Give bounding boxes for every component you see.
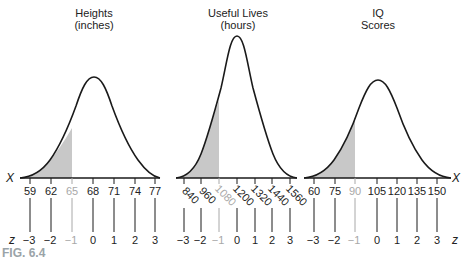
z-tick-highlight: −1 [212,234,225,246]
z-tick: 0 [374,234,380,246]
figure-label: FIG. 6.4 [2,246,46,260]
x-tick: 135 [408,185,426,197]
z-tick: 2 [132,234,138,246]
z-tick: 1 [111,234,117,246]
panel-title-line2: (hours) [221,19,256,31]
z-tick: 3 [434,234,440,246]
z-tick: 0 [90,234,96,246]
x-tick: 60 [308,185,320,197]
z-tick: −3 [307,234,320,246]
x-tick: 62 [45,185,57,197]
shaded-tail-area [304,118,355,178]
z-tick: 1 [252,234,258,246]
x-tick-labels: 840 960 1080 1200 1320 1440 1560 [180,182,310,208]
x-tick: 59 [24,185,36,197]
panel-title-line1: Useful Lives [208,7,268,19]
z-tick: 3 [287,234,293,246]
z-tick: 0 [234,234,240,246]
normal-curve [304,80,451,178]
z-tick-labels: −3 −2 −1 0 1 2 3 [23,234,158,246]
panel-heights: Heights (inches) X 59 62 65 68 71 74 77 … [5,7,161,247]
x-tick: 74 [129,185,141,197]
normal-curve [20,77,160,178]
panel-title-line2: (inches) [74,19,113,31]
x-axis-letter: X [451,171,461,185]
x-axis-letter: X [5,171,15,185]
x-tick: 71 [108,185,120,197]
x-tick: 75 [329,185,341,197]
panel-useful-lives: Useful Lives (hours) 840 960 1080 1200 1… [176,7,310,246]
x-tick: 77 [149,185,161,197]
panel-iq-scores: IQ Scores X 60 75 90 105 120 135 150 −3 … [304,7,461,247]
x-tick-highlight: 65 [66,185,78,197]
x-tick: 150 [428,185,446,197]
z-tick-highlight: −1 [65,234,78,246]
shaded-tail-area [176,100,219,178]
z-tick: −2 [328,234,341,246]
z-tick: −2 [44,234,57,246]
z-tick: −2 [194,234,207,246]
x-tick-highlight: 90 [349,185,361,197]
x-tick: 120 [388,185,406,197]
panel-title-line1: Heights [75,7,113,19]
z-axis-letter: z [8,233,15,247]
normal-distributions-figure: Heights (inches) X 59 62 65 68 71 74 77 … [0,0,466,260]
panel-title-line1: IQ [372,7,384,19]
x-tick-labels: 59 62 65 68 71 74 77 [24,185,161,197]
z-tick: 2 [414,234,420,246]
z-tick: −3 [177,234,190,246]
x-tick: 840 [180,184,201,205]
z-tick-labels: −3 −2 −1 0 1 2 3 [307,234,440,246]
z-axis-letter: z [451,233,458,247]
z-tick: −3 [23,234,36,246]
x-tick: 105 [368,185,386,197]
z-tick: 3 [152,234,158,246]
z-tick: 1 [394,234,400,246]
normal-curve [176,36,297,178]
z-tick-labels: −3 −2 −1 0 1 2 3 [177,234,293,246]
x-tick: 68 [87,185,99,197]
z-tick-highlight: −1 [348,234,361,246]
z-tick: 2 [269,234,275,246]
panel-title-line2: Scores [361,19,396,31]
x-tick-labels: 60 75 90 105 120 135 150 [308,185,446,197]
